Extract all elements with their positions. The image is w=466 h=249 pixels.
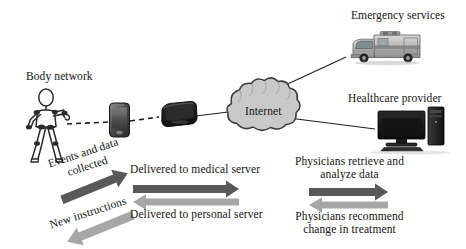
label-physicians-recommend-change-in-treatment: Physicians recommend change in treatment <box>262 210 437 236</box>
body-network-stick-figure <box>26 89 69 162</box>
connection-figure-to-phone <box>67 122 108 124</box>
diagram-canvas: Body network Internet Emergency services… <box>0 0 466 249</box>
label-body-network: Body network <box>26 70 93 82</box>
flow-arrow-delivered-to-medical-server <box>133 181 239 198</box>
gateway-router-device <box>162 101 197 126</box>
connection-phone-to-gateway <box>130 117 159 121</box>
label-emergency-services: Emergency services <box>351 9 445 21</box>
label-healthcare-provider: Healthcare provider <box>348 92 442 104</box>
ambulance-vehicle <box>351 32 420 66</box>
desktop-computer <box>370 107 450 155</box>
label-physicians-retrieve-line-2: analyze data <box>262 168 437 181</box>
label-physicians-recommend-line-1: Physicians recommend <box>262 210 437 223</box>
label-physicians-retrieve-line-1: Physicians retrieve and <box>262 155 437 168</box>
label-internet: Internet <box>245 105 282 117</box>
flow-arrow-physicians-retrieve-and-analyze-data <box>309 184 388 201</box>
label-delivered-to-personal-server: Delivered to personal server <box>130 208 263 220</box>
label-physicians-retrieve-and-analyze-data: Physicians retrieve and analyze data <box>262 155 437 181</box>
connection-gateway-to-cloud <box>196 112 228 116</box>
label-physicians-recommend-line-2: change in treatment <box>262 223 437 236</box>
label-delivered-to-medical-server: Delivered to medical server <box>130 163 260 175</box>
